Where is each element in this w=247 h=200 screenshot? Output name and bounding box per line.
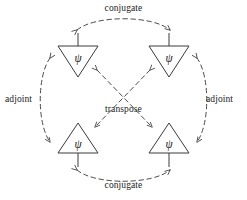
label-adjoint-left: adjoint [5,95,32,105]
edge-adjoint-left[interactable] [40,58,50,142]
node-bottom-right[interactable]: ψ [149,123,189,167]
diagram-canvas: ψ ψ ψ ψ conj [0,0,247,200]
label-conjugate-top: conjugate [0,4,247,14]
label-adjoint-right: adjoint [206,95,233,105]
edge-transpose-a[interactable] [97,70,152,127]
psi-symbol-bottom-right: ψ [165,138,173,151]
label-transpose: transpose [0,105,247,115]
edge-conjugate-top[interactable] [77,19,170,30]
psi-symbol-top-right: ψ [165,52,173,65]
psi-symbol-bottom-left: ψ [74,138,82,151]
psi-symbol-top-left: ψ [74,52,82,65]
label-conjugate-bottom: conjugate [0,181,247,191]
edge-transpose-b[interactable] [95,70,150,127]
node-bottom-left[interactable]: ψ [58,123,98,167]
node-top-right[interactable]: ψ [149,33,189,77]
node-top-left[interactable]: ψ [58,33,98,77]
